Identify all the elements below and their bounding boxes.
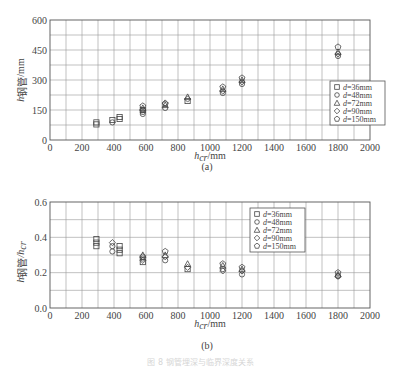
x-tick-label: 1400 [264,142,284,153]
series-d-72mm [140,252,341,277]
x-tick-label: 800 [171,310,186,321]
chart-a: 0200400600800100012001400160018002000015… [15,15,385,174]
x-tick-label: 600 [139,310,154,321]
square-marker-icon [117,244,122,249]
square-marker-icon [185,98,190,103]
x-tick-label: 0 [48,142,53,153]
x-tick-label: 1400 [264,310,284,321]
legend-entry: d=150mm [343,115,377,124]
series-d-150mm [140,248,341,275]
y-axis-ticks: 0.00.20.40.6 [35,197,48,314]
x-tick-label: 1600 [296,310,316,321]
x-tick-label: 0 [48,310,53,321]
x-tick-label: 200 [75,310,90,321]
y-axis-label: h钢管/hcr [15,241,28,282]
square-marker-icon [117,247,122,252]
y-axis-ticks: 0150300450600 [32,15,47,146]
legend: d=36mmd=48mmd=72mmd=90mmd=150mm [250,208,305,252]
diamond-marker-icon [185,96,191,102]
figure-canvas: 0200400600800100012001400160018002000015… [0,0,401,368]
x-tick-label: 1600 [296,142,316,153]
panel-label: (b) [201,340,213,352]
square-marker-icon [117,114,122,119]
y-tick-label: 0.0 [35,303,48,314]
x-axis-label: hcr/mm [194,318,226,331]
chart-b: 02004006008001000120014001600180020000.0… [15,197,380,353]
y-axis-label: h钢管/mm [15,58,28,102]
y-tick-label: 300 [32,75,47,86]
grid-lines [50,202,370,308]
x-tick-label: 1200 [232,310,252,321]
legend: d=36mmd=48mmd=72mmd=90mmd=150mm [330,81,385,125]
x-tick-label: 1800 [328,142,348,153]
x-tick-label: 2000 [360,310,380,321]
y-tick-label: 600 [32,15,47,26]
pentagon-marker-icon [220,261,226,267]
panel-label: (a) [201,161,212,173]
y-tick-label: 0.6 [35,197,48,208]
x-tick-label: 800 [171,142,186,153]
x-tick-label: 400 [107,310,122,321]
y-tick-label: 150 [32,105,47,116]
x-tick-label: 400 [107,142,122,153]
y-tick-label: 450 [32,45,47,56]
square-marker-icon [117,116,122,121]
y-tick-label: 0.4 [35,232,48,243]
triangle-marker-icon [185,261,191,267]
x-tick-label: 1200 [232,142,252,153]
y-tick-label: 0.2 [35,267,48,278]
data-points [94,44,341,127]
x-tick-label: 600 [139,142,154,153]
legend-entry: d=150mm [263,242,297,251]
y-tick-label: 0 [42,135,47,146]
x-tick-label: 200 [75,142,90,153]
x-tick-label: 2000 [360,142,380,153]
x-tick-label: 1800 [328,310,348,321]
figure-caption: 图 8 钢管埋深与临界深度关系 [0,356,401,367]
series-d-150mm [140,44,341,109]
